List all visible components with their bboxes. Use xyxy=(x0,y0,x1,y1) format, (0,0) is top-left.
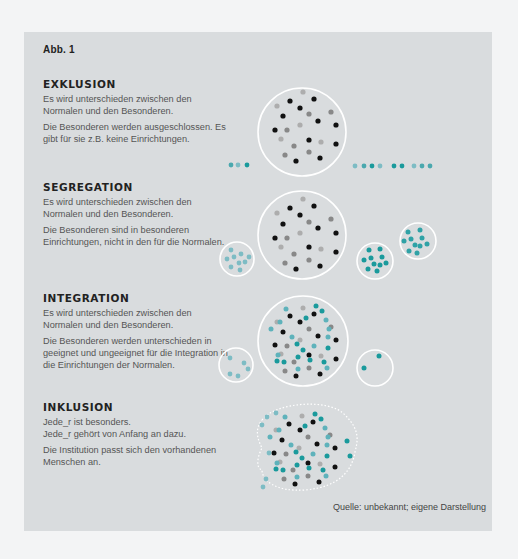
inklusion-diagram xyxy=(257,404,357,490)
integration-diagram xyxy=(219,296,393,386)
exklusion-diagram xyxy=(229,88,433,176)
source-caption: Quelle: unbekannt; eigene Darstellung xyxy=(333,502,486,512)
inclusion-diagram xyxy=(0,0,518,559)
segregation-diagram xyxy=(220,191,436,279)
